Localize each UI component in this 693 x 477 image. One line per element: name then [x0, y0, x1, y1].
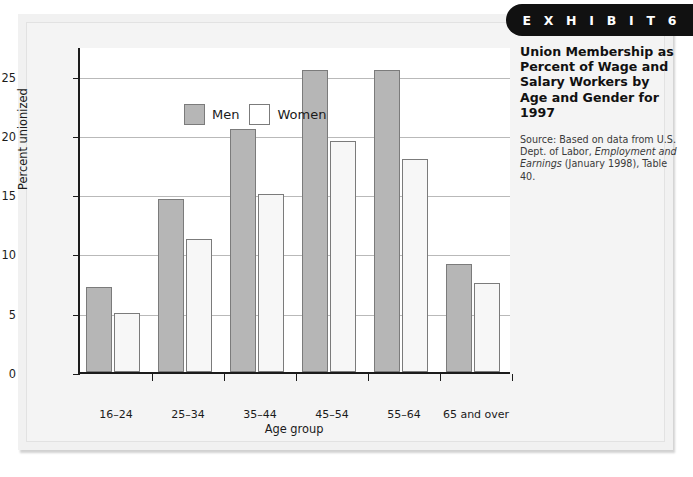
- exhibit-title: Union Membership as Percent of Wage and …: [520, 44, 680, 120]
- x-tick-mark: [440, 374, 441, 381]
- bar-men-3: [230, 129, 256, 372]
- bars-layer: [80, 48, 510, 372]
- y-tick-label-10: 10: [0, 248, 16, 262]
- bar-group: [368, 48, 440, 372]
- y-tick-mark-15: [73, 196, 80, 197]
- x-axis-title: Age group: [78, 422, 510, 436]
- plot-area: 051015202516–2425–3435–4445–5455–6465 an…: [78, 48, 510, 374]
- x-tick-label: 65 and over: [443, 408, 509, 421]
- legend-label-women: Women: [277, 107, 326, 122]
- x-tick-label: 35–44: [243, 408, 277, 421]
- x-tick-mark: [368, 374, 369, 381]
- legend-swatch-men: [184, 104, 205, 125]
- bar-group: [152, 48, 224, 372]
- x-tick-mark: [512, 374, 513, 381]
- bar-men-2: [158, 199, 184, 372]
- y-tick-label-0: 0: [0, 367, 16, 381]
- legend-item-men: Men: [184, 104, 239, 125]
- y-axis-title: Percent unionized: [16, 88, 30, 190]
- chart-legend: Men Women: [184, 104, 326, 125]
- x-tick-label: 45–54: [315, 408, 349, 421]
- y-tick-label-15: 15: [0, 189, 16, 203]
- y-tick-label-20: 20: [0, 130, 16, 144]
- legend-swatch-women: [249, 104, 270, 125]
- y-tick-mark-5: [73, 315, 80, 316]
- x-tick-label: 55–64: [387, 408, 421, 421]
- bar-men-5: [374, 70, 400, 372]
- side-panel: Union Membership as Percent of Wage and …: [520, 44, 680, 183]
- bar-women-3: [258, 194, 284, 372]
- y-tick-label-5: 5: [0, 308, 16, 322]
- bar-men-6: [446, 264, 472, 372]
- exhibit-banner: E X H I B I T 6: [506, 4, 693, 36]
- bar-women-6: [474, 283, 500, 372]
- y-tick-mark-10: [73, 255, 80, 256]
- bar-group: [440, 48, 512, 372]
- legend-item-women: Women: [249, 104, 326, 125]
- y-tick-mark-0: [73, 374, 80, 375]
- bar-group: [224, 48, 296, 372]
- y-tick-mark-25: [73, 78, 80, 79]
- exhibit-source: Source: Based on data from U.S. Dept. of…: [520, 134, 680, 183]
- chart-panel: Percent unionized 051015202516–2425–3435…: [26, 22, 516, 442]
- bar-women-2: [186, 239, 212, 372]
- bar-group: [296, 48, 368, 372]
- x-tick-mark: [296, 374, 297, 381]
- y-tick-mark-20: [73, 137, 80, 138]
- bar-men-1: [86, 287, 112, 372]
- bar-women-4: [330, 141, 356, 372]
- exhibit-page: E X H I B I T 6 Union Membership as Perc…: [0, 0, 693, 477]
- bar-women-5: [402, 159, 428, 372]
- x-tick-mark: [152, 374, 153, 381]
- bar-women-1: [114, 313, 140, 372]
- exhibit-banner-label: E X H I B I T 6: [518, 13, 680, 28]
- x-tick-mark: [224, 374, 225, 381]
- y-tick-label-25: 25: [0, 71, 16, 85]
- legend-label-men: Men: [212, 107, 239, 122]
- x-tick-label: 16–24: [99, 408, 133, 421]
- x-tick-label: 25–34: [171, 408, 205, 421]
- bar-group: [80, 48, 152, 372]
